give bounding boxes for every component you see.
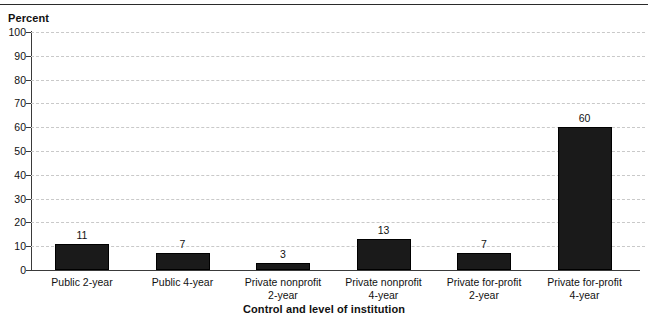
category-label-line-1: Public 4-year <box>152 276 213 288</box>
y-axis-tick-mark <box>26 222 31 223</box>
top-margin-whitespace <box>0 0 648 3</box>
top-horizontal-rule <box>0 4 648 5</box>
bar[interactable] <box>256 263 310 270</box>
y-axis-tick-label: 10 <box>0 240 26 252</box>
bar-value-label: 3 <box>280 248 286 260</box>
y-axis-tick-label: 50 <box>0 145 26 157</box>
gridline <box>31 199 645 200</box>
y-axis-tick-mark <box>26 246 31 247</box>
y-axis-tick-label: 90 <box>0 50 26 62</box>
bar[interactable] <box>55 244 109 270</box>
x-axis-category-label: Private for-profit4-year <box>547 276 622 301</box>
y-axis-tick-mark <box>26 80 31 81</box>
y-axis-tick-mark <box>26 32 31 33</box>
category-label-line-1: Public 2-year <box>51 276 112 288</box>
category-label-line-2: 4-year <box>547 289 622 302</box>
category-label-line-1: Private nonprofit <box>345 276 421 288</box>
y-axis-tick-label: 70 <box>0 97 26 109</box>
category-label-line-2: 4-year <box>345 289 421 302</box>
gridline <box>31 80 645 81</box>
category-label-line-1: Private nonprofit <box>245 276 321 288</box>
x-axis-line <box>31 270 640 271</box>
category-label-line-2: 2-year <box>245 289 321 302</box>
y-axis-tick-mark <box>26 103 31 104</box>
y-axis-tick-mark <box>26 151 31 152</box>
x-axis-category-label: Public 2-year <box>51 276 112 289</box>
y-axis-tick-label: 100 <box>0 26 26 38</box>
plot-area: 117313760 <box>31 32 645 270</box>
gridline <box>31 246 645 247</box>
gridline <box>31 175 645 176</box>
y-axis-tick-mark <box>26 175 31 176</box>
y-axis-tick-label: 40 <box>0 169 26 181</box>
gridline <box>31 151 645 152</box>
gridline <box>31 56 645 57</box>
bar[interactable] <box>457 253 511 270</box>
bar-value-label: 13 <box>378 224 390 236</box>
y-axis-tick-label: 80 <box>0 74 26 86</box>
y-axis-tick-mark <box>26 199 31 200</box>
category-label-line-1: Private for-profit <box>547 276 622 288</box>
gridline <box>31 32 645 33</box>
y-axis-tick-label: 30 <box>0 193 26 205</box>
x-axis-category-label: Private nonprofit4-year <box>345 276 421 301</box>
bar-value-label: 7 <box>481 238 487 250</box>
y-axis-tick-label: 0 <box>0 264 26 276</box>
y-axis-tick-mark <box>26 270 31 271</box>
bar-value-label: 60 <box>579 112 591 124</box>
y-axis-title: Percent <box>8 12 49 24</box>
x-axis-category-label: Public 4-year <box>152 276 213 289</box>
bar-value-label: 7 <box>180 238 186 250</box>
x-axis-title: Control and level of institution <box>0 303 648 315</box>
gridline <box>31 103 645 104</box>
y-axis-tick-mark <box>26 127 31 128</box>
x-axis-category-label: Private for-profit2-year <box>447 276 522 301</box>
bar[interactable] <box>558 127 612 270</box>
category-label-line-1: Private for-profit <box>447 276 522 288</box>
gridline <box>31 222 645 223</box>
bar[interactable] <box>156 253 210 270</box>
bar[interactable] <box>357 239 411 270</box>
category-label-line-2: 2-year <box>447 289 522 302</box>
y-axis-tick-label: 20 <box>0 216 26 228</box>
gridline <box>31 127 645 128</box>
bar-chart-figure: Percent 117313760 1009080706050403020100… <box>0 0 648 323</box>
bar-value-label: 11 <box>77 229 88 241</box>
y-axis-tick-label: 60 <box>0 121 26 133</box>
y-axis-tick-mark <box>26 56 31 57</box>
x-axis-category-label: Private nonprofit2-year <box>245 276 321 301</box>
